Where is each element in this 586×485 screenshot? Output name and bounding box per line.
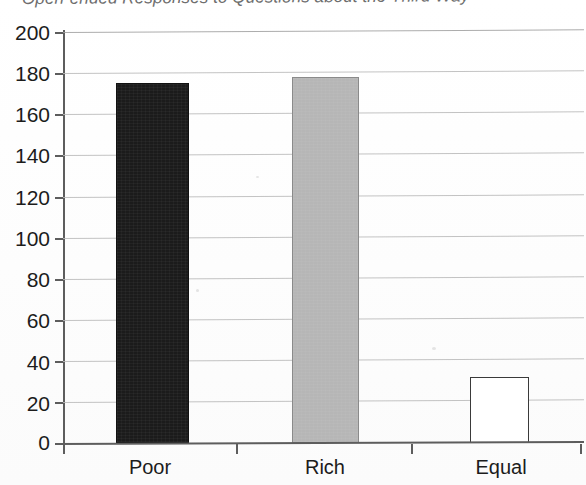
y-tick-label-160: 160 bbox=[0, 104, 50, 125]
y-tick-label-60: 60 bbox=[0, 310, 50, 331]
y-tick-label-100: 100 bbox=[0, 228, 50, 249]
bar-rich bbox=[292, 77, 359, 443]
gridline-200 bbox=[63, 29, 584, 33]
x-tick-mark-3 bbox=[580, 444, 582, 454]
x-tick-mark-2 bbox=[411, 444, 413, 454]
x-tick-mark-1 bbox=[236, 444, 238, 454]
bar-chart-figure: Open-ended Responses to Questions about … bbox=[0, 0, 586, 485]
y-tick-label-120: 120 bbox=[0, 187, 50, 208]
x-tick-label-equal: Equal bbox=[446, 456, 556, 478]
y-tick-label-40: 40 bbox=[0, 352, 50, 373]
y-tick-label-0: 0 bbox=[0, 432, 50, 453]
bar-poor bbox=[116, 83, 189, 443]
y-tick-label-80: 80 bbox=[0, 269, 50, 290]
x-tick-label-rich: Rich bbox=[275, 456, 375, 478]
y-tick-label-140: 140 bbox=[0, 145, 50, 166]
bar-equal bbox=[470, 377, 529, 443]
x-tick-label-poor: Poor bbox=[100, 456, 200, 478]
gridline-180 bbox=[63, 70, 584, 74]
plot-area bbox=[63, 32, 583, 443]
y-tick-label-200: 200 bbox=[0, 22, 50, 43]
x-tick-mark-0 bbox=[63, 444, 65, 454]
chart-title: Open-ended Responses to Questions about … bbox=[22, 0, 582, 9]
y-tick-label-20: 20 bbox=[0, 393, 50, 414]
y-axis-labels: 200 180 160 140 120 100 80 60 40 20 0 bbox=[0, 0, 50, 485]
y-tick-label-180: 180 bbox=[0, 63, 50, 84]
